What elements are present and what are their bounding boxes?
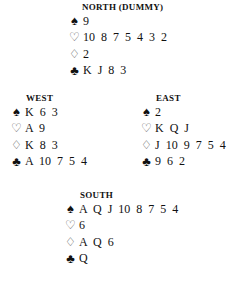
club-icon: ♣ <box>10 154 23 170</box>
east-diamonds: ♢ J 10 9 7 5 4 <box>140 137 226 154</box>
club-icon: ♣ <box>140 154 153 170</box>
north-diamonds: ♢ 2 <box>68 46 167 63</box>
west-hand: WEST ♠ K 6 3 ♡ A 9 ♢ K 8 3 ♣ A 10 7 5 4 <box>10 93 87 170</box>
spade-icon: ♠ <box>10 104 23 120</box>
south-clubs: ♣ Q <box>64 251 178 268</box>
spade-icon: ♠ <box>68 13 81 29</box>
east-label: EAST <box>156 93 226 103</box>
west-diamonds: ♢ K 8 3 <box>10 137 87 154</box>
diamond-icon: ♢ <box>10 138 23 153</box>
west-label: WEST <box>26 93 87 103</box>
east-spades: ♠ 2 <box>140 104 226 121</box>
heart-icon: ♡ <box>68 30 81 45</box>
south-label: SOUTH <box>80 190 178 200</box>
south-hand: SOUTH ♠ A Q J 10 8 7 5 4 ♡ 6 ♢ A Q 6 ♣ Q <box>64 190 178 267</box>
north-spades: ♠ 9 <box>68 13 167 30</box>
south-hearts: ♡ 6 <box>64 218 178 235</box>
spade-icon: ♠ <box>64 201 77 217</box>
west-clubs: ♣ A 10 7 5 4 <box>10 154 87 171</box>
north-hearts: ♡ 10 8 7 5 4 3 2 <box>68 30 167 47</box>
west-hearts: ♡ A 9 <box>10 121 87 138</box>
north-label: NORTH (DUMMY) <box>82 2 167 12</box>
heart-icon: ♡ <box>10 121 23 136</box>
south-spades: ♠ A Q J 10 8 7 5 4 <box>64 201 178 218</box>
spade-icon: ♠ <box>140 104 153 120</box>
heart-icon: ♡ <box>140 121 153 136</box>
north-hand: NORTH (DUMMY) ♠ 9 ♡ 10 8 7 5 4 3 2 ♢ 2 ♣… <box>68 2 167 79</box>
club-icon: ♣ <box>64 251 77 267</box>
heart-icon: ♡ <box>64 218 77 233</box>
diamond-icon: ♢ <box>64 235 77 250</box>
diamond-icon: ♢ <box>68 47 81 62</box>
club-icon: ♣ <box>68 63 81 79</box>
east-hearts: ♡ K Q J <box>140 121 226 138</box>
west-spades: ♠ K 6 3 <box>10 104 87 121</box>
diamond-icon: ♢ <box>140 138 153 153</box>
south-diamonds: ♢ A Q 6 <box>64 234 178 251</box>
north-clubs: ♣ K J 8 3 <box>68 63 167 80</box>
east-clubs: ♣ 9 6 2 <box>140 154 226 171</box>
east-hand: EAST ♠ 2 ♡ K Q J ♢ J 10 9 7 5 4 ♣ 9 6 2 <box>140 93 226 170</box>
